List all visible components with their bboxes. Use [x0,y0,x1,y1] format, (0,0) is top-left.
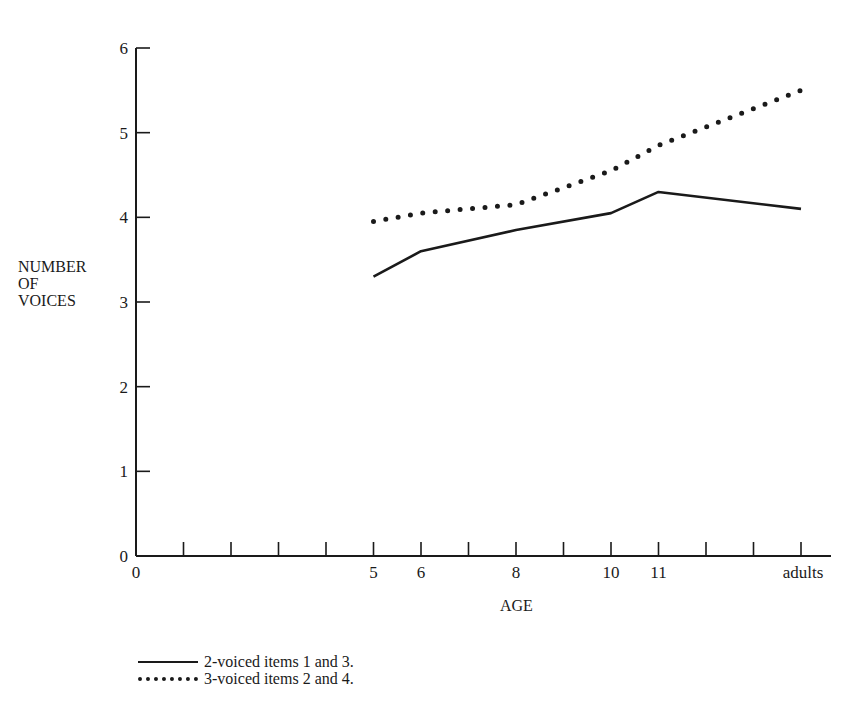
y-axis-label-line-1: NUMBER [18,258,86,275]
dotted-line-swatch-icon [138,677,198,681]
x-tick-label: adults [783,563,824,582]
legend-label: 2-voiced items 1 and 3. [204,653,354,670]
y-axis-label-line-3: VOICES [18,292,86,309]
x-axis-label: AGE [500,597,533,615]
y-tick-label: 3 [120,293,129,312]
legend-label: 3-voiced items 2 and 4. [204,670,354,687]
line-chart: 012345605681011adults [0,0,843,701]
solid-line-swatch-icon [138,661,198,663]
y-tick-label: 2 [120,378,129,397]
x-tick-label: 11 [650,563,666,582]
y-tick-label: 6 [120,39,129,58]
series-2-voiced-line [374,192,802,277]
legend: 2-voiced items 1 and 3. 3-voiced items 2… [138,653,354,687]
y-tick-label: 0 [120,547,129,566]
axes: 012345605681011adults [120,39,832,582]
x-tick-label: 8 [512,563,521,582]
y-axis-label-line-2: OF [18,275,86,292]
y-tick-label: 1 [120,462,129,481]
y-tick-label: 4 [120,208,129,227]
y-axis-label: NUMBER OF VOICES [18,258,86,309]
x-tick-label: 10 [603,563,620,582]
legend-item-dotted: 3-voiced items 2 and 4. [138,670,354,687]
x-tick-label: 5 [369,563,378,582]
series-lines [374,90,802,276]
legend-item-solid: 2-voiced items 1 and 3. [138,653,354,670]
x-tick-label: 6 [417,563,426,582]
x-tick-label: 0 [132,563,141,582]
y-tick-label: 5 [120,124,129,143]
